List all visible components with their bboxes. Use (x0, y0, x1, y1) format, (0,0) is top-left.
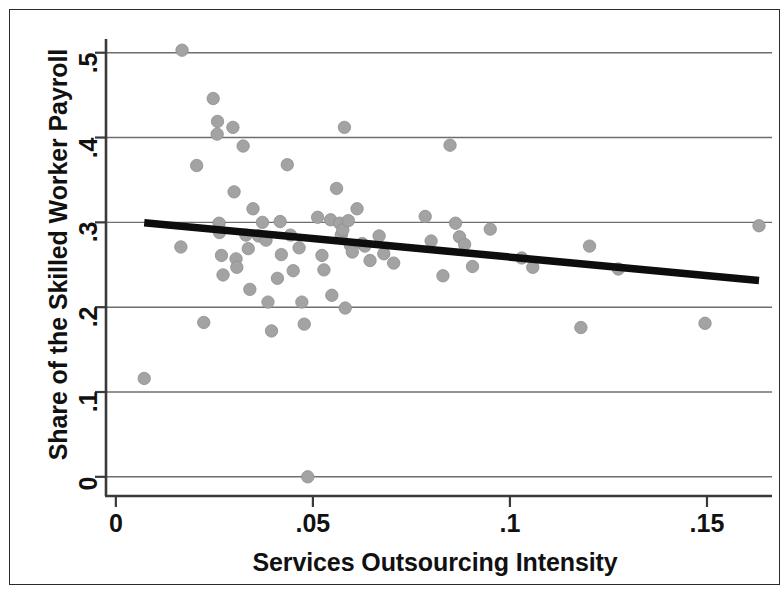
data-point (466, 260, 478, 272)
data-point (339, 302, 351, 314)
data-point (198, 316, 210, 328)
data-point (176, 44, 188, 56)
data-point (575, 321, 587, 333)
data-point (338, 121, 350, 133)
data-point (302, 471, 314, 483)
data-point (699, 317, 711, 329)
data-point (211, 128, 223, 140)
y-axis-tick-label: .2 (74, 307, 103, 367)
data-point (274, 215, 286, 227)
data-point (211, 115, 223, 127)
y-axis-tick-label: .1 (74, 392, 103, 452)
data-point (190, 159, 202, 171)
y-axis-title: Share of the Skilled Worker Payroll (44, 45, 73, 465)
data-point (227, 121, 239, 133)
data-point (281, 158, 293, 170)
data-point (175, 241, 187, 253)
data-point (387, 257, 399, 269)
data-point (217, 269, 229, 281)
x-axis-tick-label: .15 (690, 509, 725, 538)
data-point (138, 372, 150, 384)
data-point (256, 216, 268, 228)
data-point (247, 203, 259, 215)
scatter-plot (0, 0, 784, 589)
data-point (228, 186, 240, 198)
data-point (437, 270, 449, 282)
data-point (351, 203, 363, 215)
data-point (484, 223, 496, 235)
x-axis-tick-label: .05 (296, 509, 331, 538)
data-point (265, 325, 277, 337)
data-point (298, 318, 310, 330)
x-axis-title: Services Outsourcing Intensity (105, 548, 765, 577)
data-point (296, 296, 308, 308)
data-point (753, 220, 765, 232)
x-axis-tick-label: 0 (109, 509, 123, 538)
data-point (318, 264, 330, 276)
data-point (364, 254, 376, 266)
data-point (271, 272, 283, 284)
y-axis-tick-label: .4 (74, 137, 103, 197)
data-point (275, 248, 287, 260)
data-point (316, 249, 328, 261)
data-point (244, 283, 256, 295)
data-point (311, 211, 323, 223)
y-axis-tick-label: .5 (74, 52, 103, 112)
data-point (242, 242, 254, 254)
data-point (287, 265, 299, 277)
data-point-group (138, 44, 765, 483)
y-axis-tick-label: .3 (74, 222, 103, 282)
data-point (215, 249, 227, 261)
data-point (231, 261, 243, 273)
data-point (444, 139, 456, 151)
data-point (326, 289, 338, 301)
figure-container: Share of the Skilled Worker Payroll Serv… (0, 0, 784, 589)
data-point (419, 210, 431, 222)
data-point (330, 182, 342, 194)
y-axis-tick-label: 0 (74, 476, 103, 536)
data-point (449, 217, 461, 229)
data-point (583, 240, 595, 252)
data-point (207, 92, 219, 104)
data-point (262, 296, 274, 308)
data-point (342, 214, 354, 226)
data-point (237, 140, 249, 152)
data-point (373, 230, 385, 242)
data-point (293, 242, 305, 254)
x-axis-tick-label: .1 (499, 509, 520, 538)
data-point (346, 246, 358, 258)
data-point (425, 235, 437, 247)
